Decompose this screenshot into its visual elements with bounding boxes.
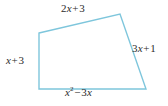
side-label-top: 2x+3 [61, 3, 85, 14]
side-label-right: 3x+1 [132, 43, 156, 54]
side-label-top-constant: 3 [79, 2, 85, 14]
side-label-bottom-variable2: x [87, 86, 92, 98]
side-label-bottom: x2−3x [65, 87, 92, 98]
side-label-left-operator: + [11, 54, 18, 66]
quadrilateral-figure: 2x+3 3x+1 x+3 x2−3x [0, 0, 168, 106]
quadrilateral-outline [39, 14, 146, 89]
side-label-left-constant: 3 [19, 54, 25, 66]
side-label-right-constant: 1 [150, 42, 156, 54]
side-label-left: x+3 [6, 55, 24, 66]
